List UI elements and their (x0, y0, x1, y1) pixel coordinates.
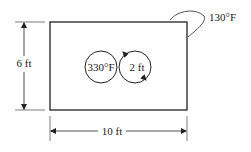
pipe-diameter-label: 2 ft (130, 61, 145, 73)
pipe-temperature-label: 330°F (87, 61, 114, 73)
width-label: 10 ft (102, 125, 122, 137)
heat-transfer-diagram: 130°F 330°F 2 ft 6 ft 10 ft (0, 0, 251, 152)
wall-temperature-label: 130°F (209, 11, 236, 23)
height-label: 6 ft (17, 57, 32, 69)
room-rectangle (50, 22, 187, 110)
diameter-arrow-bottom (142, 76, 146, 80)
